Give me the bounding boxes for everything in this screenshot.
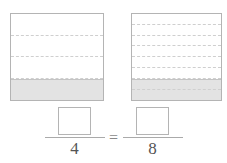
numerator-input-right[interactable] xyxy=(136,107,169,135)
model-right-part-6[interactable] xyxy=(132,68,221,79)
model-right-part-3[interactable] xyxy=(132,36,221,47)
model-left-part-1[interactable] xyxy=(11,14,103,36)
model-right-part-8-shaded[interactable] xyxy=(132,90,221,100)
model-left-part-2[interactable] xyxy=(11,36,103,58)
equals-sign: = xyxy=(107,130,121,146)
model-right-part-2[interactable] xyxy=(132,25,221,36)
model-left-part-4-shaded[interactable] xyxy=(11,79,103,101)
fraction-models-area xyxy=(0,0,227,106)
denominator-right: 8 xyxy=(148,139,157,158)
model-left-part-3[interactable] xyxy=(11,57,103,79)
fraction-left: 4 xyxy=(43,107,107,158)
fraction-bar-right xyxy=(123,137,183,138)
model-right-part-5[interactable] xyxy=(132,57,221,68)
model-right-part-4[interactable] xyxy=(132,46,221,57)
fraction-model-left[interactable] xyxy=(10,13,104,101)
equivalent-fraction-equation: 4 = 8 xyxy=(0,107,227,163)
model-right-part-1[interactable] xyxy=(132,14,221,25)
fraction-bar-left xyxy=(45,137,105,138)
model-right-part-7-shaded[interactable] xyxy=(132,79,221,91)
fraction-right: 8 xyxy=(121,107,185,158)
fraction-model-right[interactable] xyxy=(131,13,222,101)
denominator-left: 4 xyxy=(70,139,79,158)
numerator-input-left[interactable] xyxy=(58,107,91,135)
